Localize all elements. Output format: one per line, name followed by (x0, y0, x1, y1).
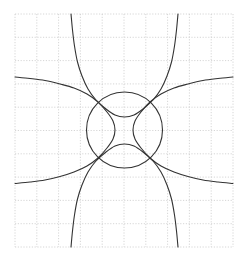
figure-container (0, 0, 248, 262)
plot-canvas (0, 0, 248, 262)
